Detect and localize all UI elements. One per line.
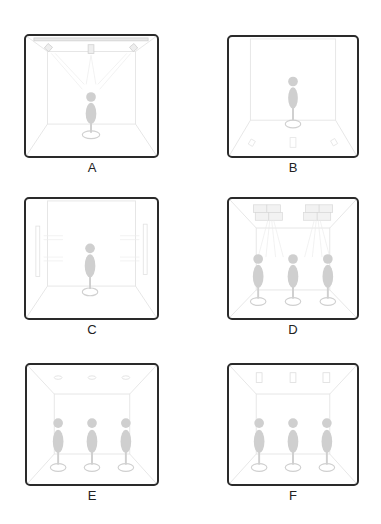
room-box-b	[227, 35, 359, 158]
person-icon	[53, 418, 64, 464]
person-icon	[121, 418, 132, 464]
room-box-a	[24, 34, 159, 158]
person-icon	[85, 244, 96, 289]
ceiling-diffuser-icon	[304, 205, 333, 220]
floor-marker-icon	[250, 298, 335, 306]
person-icon	[288, 77, 298, 121]
room-diagram-e	[27, 365, 157, 484]
panel-label: E	[72, 488, 112, 503]
room-diagram-a	[26, 36, 157, 156]
ceiling-vent-icon	[256, 373, 330, 383]
person-icon	[254, 418, 265, 464]
room-box-c	[24, 197, 159, 320]
room-box-d	[227, 197, 359, 320]
panel-label: F	[273, 488, 313, 503]
wall-nozzle-panel-icon	[143, 224, 147, 274]
person-icon	[87, 418, 98, 464]
person-icon	[86, 92, 97, 133]
room-diagram-d	[229, 199, 357, 318]
floor-nozzle-icon	[248, 139, 255, 146]
floor-marker-icon	[82, 288, 97, 296]
person-icon	[322, 418, 333, 464]
panel-label: A	[72, 160, 112, 175]
spotlight-icon	[88, 45, 94, 54]
room-box-e	[25, 363, 159, 486]
panel-label: B	[273, 160, 313, 175]
floor-marker-icon	[50, 464, 133, 472]
ceiling-vent-icon	[54, 376, 129, 379]
room-box-f	[227, 363, 359, 486]
floor-marker-icon	[251, 464, 334, 472]
person-icon	[288, 254, 299, 299]
ceiling-track-icon	[34, 38, 148, 41]
wall-nozzle-panel-icon	[36, 226, 40, 276]
room-diagram-c	[26, 199, 157, 318]
room-diagram-f	[229, 365, 357, 484]
panel-label: C	[72, 322, 112, 337]
floor-nozzle-icon	[331, 138, 338, 145]
floor-nozzle-icon	[290, 138, 296, 148]
panel-label: D	[273, 322, 313, 337]
floor-marker-icon	[285, 120, 300, 128]
person-icon	[288, 418, 299, 464]
room-diagram-b	[229, 37, 357, 156]
ceiling-diffuser-icon	[253, 205, 282, 220]
